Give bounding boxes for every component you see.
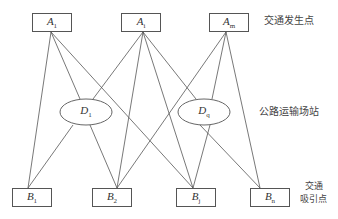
node-label: Bn (265, 190, 275, 205)
edge (51, 32, 80, 99)
station-label-Dq: Dq (189, 104, 219, 119)
label-attraction-points: 交通 吸引点 (300, 180, 327, 206)
node-label: Bj (192, 190, 201, 205)
edge (28, 125, 73, 188)
node-label: A1 (47, 15, 57, 30)
attraction-node-Bm: Bn (250, 188, 290, 207)
generation-node-Am: Am (209, 13, 249, 32)
node-label: Am (223, 15, 235, 30)
station-label-D1: D1 (71, 104, 101, 119)
attraction-node-Bj: Bj (176, 188, 216, 207)
edge (200, 125, 260, 188)
edge (193, 125, 210, 188)
node-label: Ai (137, 15, 146, 30)
label-attraction-line2: 吸引点 (300, 193, 327, 206)
edge (117, 32, 143, 188)
edge (28, 32, 51, 188)
attraction-node-B1: B1 (12, 188, 52, 207)
attraction-node-B2: B2 (92, 188, 132, 207)
generation-node-Ai: Ai (121, 13, 161, 32)
edge (143, 32, 196, 99)
label-highway-stations: 公路运输场站 (259, 105, 319, 118)
node-label: B2 (107, 190, 117, 205)
edge (90, 125, 117, 188)
label-generation-points: 交通发生点 (264, 14, 314, 27)
generation-node-A1: A1 (32, 13, 72, 32)
label-attraction-line1: 交通 (300, 180, 327, 193)
edge (226, 32, 260, 188)
edge (93, 32, 143, 99)
node-label: B1 (27, 190, 37, 205)
